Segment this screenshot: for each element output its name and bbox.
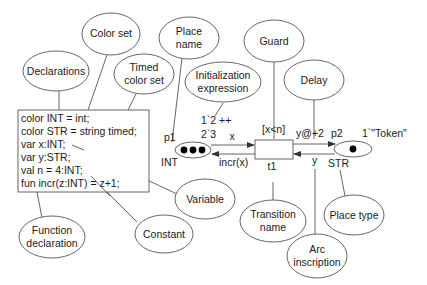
svg-text:Delay: Delay: [301, 74, 329, 86]
place-p2-init: 1`"Token": [362, 127, 407, 139]
arc-p1-t1-label: x: [229, 130, 235, 142]
svg-text:inscription: inscription: [293, 256, 340, 268]
decl-line: var y:STR;: [21, 151, 71, 163]
svg-text:Arc: Arc: [309, 243, 325, 255]
svg-text:Declarations: Declarations: [27, 65, 85, 77]
arc-t1-p2-label: y@+2: [296, 127, 324, 139]
svg-text:name: name: [260, 221, 286, 233]
declarations-box: color INT = int; color STR = string time…: [18, 110, 149, 192]
callout-place-type: Place type: [324, 195, 384, 235]
cpn-diagram: Color set Declarations Timed color set P…: [0, 0, 427, 285]
place-p2-name: p2: [331, 127, 343, 139]
place-p1-init-1: 1`2 ++: [201, 114, 231, 126]
decl-line: color INT = int;: [21, 112, 89, 124]
callout-guard: Guard: [244, 20, 304, 62]
svg-text:Timed: Timed: [130, 61, 159, 73]
callout-place-name: Place name: [159, 17, 219, 59]
callout-constant: Constant: [135, 215, 193, 253]
decl-line: fun incr(z:INT) = z+1;: [21, 177, 120, 189]
place-p2-type: STR: [328, 157, 349, 169]
svg-text:name: name: [176, 38, 202, 50]
callout-transition-name: Transition name: [240, 200, 306, 242]
token: [199, 147, 206, 154]
svg-text:color set: color set: [124, 74, 164, 86]
svg-text:Function: Function: [32, 224, 72, 236]
svg-text:Color set: Color set: [90, 27, 132, 39]
callout-delay: Delay: [284, 60, 344, 100]
place-p1-type: INT: [161, 156, 179, 168]
decl-line: val n = 4:INT;: [21, 164, 83, 176]
transition-t1: [x<n] t1: [255, 123, 293, 172]
place-p1-init-2: 2`3: [201, 128, 216, 140]
callout-function-declaration: Function declaration: [19, 216, 85, 258]
place-p1-name: p1: [164, 131, 176, 143]
svg-text:Transition: Transition: [250, 208, 296, 220]
svg-text:Place type: Place type: [329, 209, 378, 221]
decl-line: color STR = string timed;: [21, 125, 137, 137]
svg-text:Constant: Constant: [143, 228, 185, 240]
place-p2: p2 1`"Token" STR: [328, 127, 407, 169]
svg-text:Initialization: Initialization: [196, 69, 251, 81]
decl-line: var x:INT;: [21, 138, 65, 150]
transition-guard: [x<n]: [262, 123, 285, 135]
svg-text:Variable: Variable: [186, 193, 224, 205]
arc-t1-p1-label: incr(x): [219, 156, 248, 168]
callout-initialization-expression: Initialization expression: [185, 62, 261, 102]
transition-name: t1: [268, 160, 277, 172]
callout-variable: Variable: [175, 179, 235, 219]
callout-timed-color-set: Timed color set: [114, 54, 174, 94]
callout-color-set: Color set: [82, 13, 140, 55]
svg-text:expression: expression: [198, 82, 249, 94]
callout-declarations: Declarations: [23, 51, 89, 91]
token: [190, 147, 197, 154]
token: [181, 147, 188, 154]
svg-text:Guard: Guard: [259, 35, 288, 47]
callout-arc-inscription: Arc inscription: [287, 234, 347, 278]
svg-text:declaration: declaration: [26, 237, 78, 249]
svg-text:Place: Place: [176, 25, 202, 37]
token: [350, 146, 357, 153]
arc-p2-t1-label: y: [312, 154, 318, 166]
